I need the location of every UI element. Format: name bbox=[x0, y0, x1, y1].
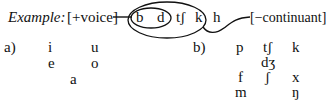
vowel-e: e bbox=[48, 56, 55, 71]
segment-h: h bbox=[213, 10, 221, 25]
consonant-m: m bbox=[235, 85, 247, 100]
segment-tsh: tʃ bbox=[176, 10, 185, 25]
segment-k: k bbox=[195, 10, 203, 25]
consonant-dzh: dʒ bbox=[261, 55, 275, 70]
consonant-sh: ʃ bbox=[265, 70, 270, 85]
voice-feature-label: [+voice] bbox=[67, 10, 118, 25]
continuant-connector-line bbox=[203, 17, 250, 32]
segment-b: b bbox=[136, 10, 144, 25]
vowel-o: o bbox=[91, 56, 99, 71]
consonant-p: p bbox=[236, 40, 244, 55]
consonant-tsh: tʃ bbox=[263, 40, 272, 55]
consonant-x: x bbox=[292, 70, 300, 85]
vowel-i: i bbox=[48, 40, 52, 55]
part-b-label: b) bbox=[193, 40, 206, 55]
part-a-label: a) bbox=[4, 40, 16, 55]
consonant-f: f bbox=[238, 70, 243, 85]
consonant-k: k bbox=[292, 40, 300, 55]
continuant-feature-label: [−continuant] bbox=[250, 10, 326, 25]
consonant-eng: ŋ bbox=[292, 85, 299, 100]
vowel-u: u bbox=[91, 40, 99, 55]
vowel-a: a bbox=[70, 72, 77, 87]
example-label: Example: bbox=[8, 10, 65, 25]
segment-d: d bbox=[157, 10, 165, 25]
